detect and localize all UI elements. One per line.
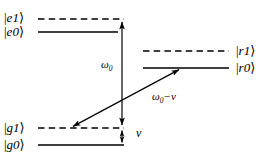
carrier-frequency-label: ω0 xyxy=(101,59,113,73)
sideband-omega-symbol: ω xyxy=(152,90,160,102)
ket-close-r0: ⟩ xyxy=(250,60,255,75)
ket-close-g0: ⟩ xyxy=(20,137,25,152)
energy-level-diagram: |e1⟩ |e0⟩ |g1⟩ |g0⟩ |r1⟩ |r0⟩ ω0 ω0−ν ν xyxy=(0,0,271,163)
ket-symbol-e1: e1 xyxy=(7,10,19,25)
ket-symbol-g1: g1 xyxy=(7,120,20,135)
ket-close-e0: ⟩ xyxy=(19,24,24,39)
level-label-r1: |r1⟩ xyxy=(236,44,255,57)
level-label-e0: |e0⟩ xyxy=(4,25,24,38)
carrier-omega-symbol: ω xyxy=(101,58,109,70)
ket-close-g1: ⟩ xyxy=(20,120,25,135)
sideband-frequency-label: ω0−ν xyxy=(152,91,176,105)
ket-close-r1: ⟩ xyxy=(250,43,255,58)
level-label-r0: |r0⟩ xyxy=(236,61,255,74)
carrier-omega-subscript: 0 xyxy=(109,64,113,73)
ket-symbol-r0: r0 xyxy=(239,60,251,75)
level-label-e1: |e1⟩ xyxy=(4,11,24,24)
ket-symbol-g0: g0 xyxy=(7,137,20,152)
level-label-g1: |g1⟩ xyxy=(4,121,25,134)
level-label-g0: |g0⟩ xyxy=(4,138,25,151)
motional-frequency-label: ν xyxy=(136,127,141,139)
ket-symbol-e0: e0 xyxy=(7,24,19,39)
ket-close-e1: ⟩ xyxy=(19,10,24,25)
sideband-detuning-term: −ν xyxy=(164,90,176,102)
ket-symbol-r1: r1 xyxy=(239,43,251,58)
